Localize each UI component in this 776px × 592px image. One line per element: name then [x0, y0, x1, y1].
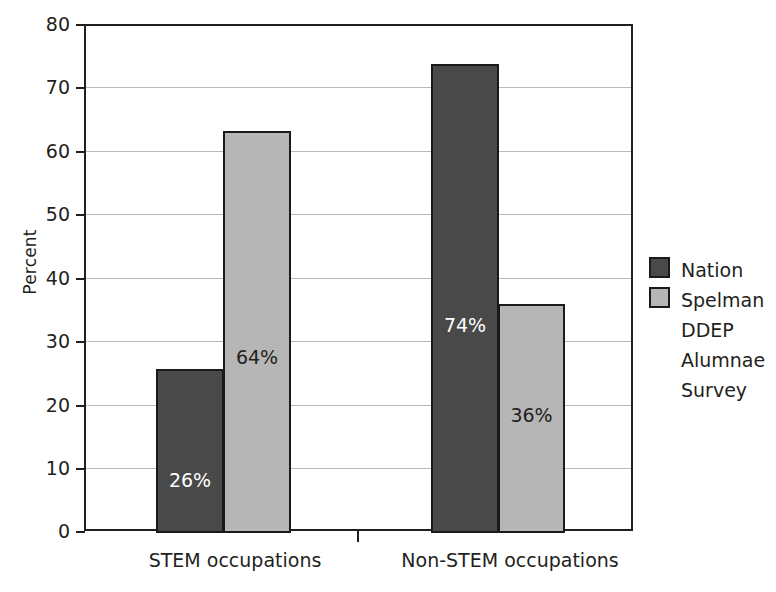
- plot-area: 26% 64% 74% 36%: [84, 24, 633, 531]
- x-axis-label-non-stem: Non-STEM occupations: [380, 549, 640, 571]
- bar-spelman-nonstem: 36%: [498, 304, 565, 533]
- x-tick-mark-group-divider: [357, 531, 359, 542]
- bar-label-nation-stem: 26%: [158, 471, 222, 490]
- y-tick-label-10: 10: [26, 459, 70, 478]
- gridline-60: [86, 151, 631, 152]
- legend-swatch-spelman-icon: [649, 287, 670, 308]
- legend-item-spelman[interactable]: Spelman DDEP Alumnae Survey: [649, 285, 776, 405]
- y-tick-label-40: 40: [26, 269, 70, 288]
- legend-label-spelman-line-2: DDEP: [681, 315, 776, 345]
- bar-label-spelman-nonstem: 36%: [500, 406, 563, 425]
- y-tick-label-70: 70: [26, 78, 70, 97]
- y-tick-label-20: 20: [26, 396, 70, 415]
- y-tick-mark-0: [76, 531, 85, 533]
- legend-swatch-nation-icon: [649, 257, 670, 278]
- plot-inner: 26% 64% 74% 36%: [86, 26, 631, 529]
- bar-label-nation-nonstem: 74%: [433, 316, 497, 335]
- legend-label-spelman-line-3: Alumnae: [681, 345, 776, 375]
- gridline-40: [86, 278, 631, 279]
- gridline-50: [86, 214, 631, 215]
- y-tick-label-30: 30: [26, 332, 70, 351]
- bar-spelman-stem: 64%: [223, 131, 291, 533]
- legend-label-spelman-line-4: Survey: [681, 375, 776, 405]
- legend-label-spelman-line-1: Spelman: [681, 285, 776, 315]
- y-tick-label-60: 60: [26, 142, 70, 161]
- legend: Nation Spelman DDEP Alumnae Survey: [649, 255, 776, 405]
- bar-nation-nonstem: 74%: [431, 64, 499, 533]
- bar-nation-stem: 26%: [156, 369, 224, 533]
- legend-label-nation: Nation: [681, 255, 776, 285]
- y-tick-label-0: 0: [26, 522, 70, 541]
- gridline-70: [86, 87, 631, 88]
- y-tick-label-80: 80: [26, 15, 70, 34]
- bar-label-spelman-stem: 64%: [225, 348, 289, 367]
- legend-item-nation[interactable]: Nation: [649, 255, 776, 285]
- bar-chart: Percent 80 70 60 50 40 30 20 10 0 26%: [0, 0, 776, 592]
- x-axis-label-stem: STEM occupations: [120, 549, 350, 571]
- y-tick-label-50: 50: [26, 205, 70, 224]
